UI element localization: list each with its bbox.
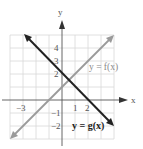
- graph: y x −3 1 2 4 3 2 −1 −2 y = f(x) y = g(x): [0, 0, 143, 149]
- y-axis-arrow-icon: [59, 20, 65, 29]
- label-f: y = f(x): [89, 62, 118, 73]
- y-axis-label: y: [58, 7, 63, 17]
- tick-x-m3: −3: [16, 103, 26, 113]
- label-g: y = g(x): [72, 120, 104, 132]
- x-axis-arrow-icon: [119, 97, 128, 103]
- tick-y-4: 4: [54, 43, 59, 53]
- tick-y-2: 2: [54, 69, 59, 79]
- tick-x-2: 2: [85, 103, 90, 113]
- tick-x-1: 1: [73, 103, 78, 113]
- tick-y-m1: −1: [51, 108, 61, 118]
- x-axis-label: x: [131, 95, 136, 105]
- tick-y-3: 3: [54, 56, 59, 66]
- tick-y-m2: −2: [51, 121, 61, 131]
